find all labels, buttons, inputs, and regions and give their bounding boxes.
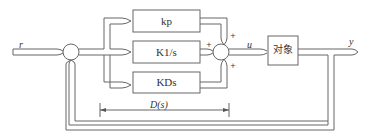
sign-plus-bottom: + [230, 63, 236, 70]
sign-plus-top: + [230, 33, 236, 40]
signal-label-u: u [247, 40, 252, 50]
sign-plus-left: + [206, 42, 212, 49]
block-k1s-label: K1/s [133, 47, 200, 58]
dimension-arrow-left [100, 108, 106, 112]
controller-span-label: D(s) [150, 100, 168, 110]
summing-junction-1 [63, 44, 79, 60]
block-kds-label: KDs [133, 77, 200, 88]
summing-junction-2 [213, 44, 229, 60]
block-kp-label: kp [133, 16, 200, 27]
block-plant-label: 对象 [270, 45, 296, 55]
signal-label-y: y [349, 37, 353, 47]
pid-block-diagram: r u y kp K1/s KDs 对象 + + + D(s) [0, 0, 369, 140]
signal-label-r: r [19, 40, 23, 50]
dimension-arrow-right [223, 108, 229, 112]
